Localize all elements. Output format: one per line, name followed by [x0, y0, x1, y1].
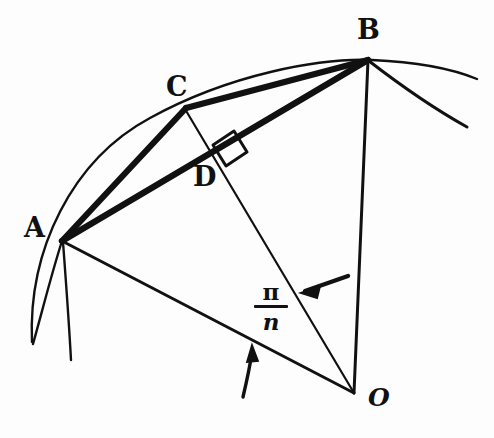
point-label-C: C — [166, 73, 188, 100]
point-label-O: O — [368, 385, 390, 410]
figure-canvas: .ink { stroke: #111111; fill: none; stro… — [0, 0, 494, 438]
radius-AO — [62, 241, 354, 393]
arc-tail-second — [63, 242, 71, 360]
angle-arrow-upper — [301, 276, 348, 298]
angle-arrow-lower — [243, 345, 258, 397]
radius-BO — [354, 60, 368, 393]
angle-denominator: n — [246, 310, 296, 334]
point-label-B: B — [357, 16, 380, 43]
chord-AC — [62, 108, 186, 241]
point-label-A: A — [24, 214, 45, 241]
arc-tail-lower-left — [33, 241, 62, 344]
chord-CB — [186, 60, 368, 108]
point-label-D: D — [193, 163, 217, 190]
angle-numerator: π — [246, 280, 296, 304]
geometry-figure: .ink { stroke: #111111; fill: none; stro… — [0, 0, 494, 438]
angle-label-pi-over-n: π n — [246, 280, 296, 334]
